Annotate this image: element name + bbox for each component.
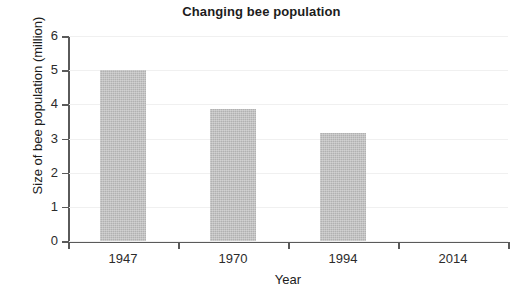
bar-chart: Changing bee population Size of bee popu… — [0, 0, 523, 297]
y-axis-tick — [62, 207, 69, 209]
y-axis-tick-label: 5 — [36, 63, 58, 76]
y-axis-tick — [62, 139, 69, 141]
y-axis-tick — [62, 70, 69, 72]
plot-area — [68, 36, 508, 241]
x-axis-tick-label: 1970 — [198, 252, 268, 265]
bar-1947 — [100, 70, 146, 241]
y-axis-tick-label: 1 — [36, 200, 58, 213]
y-axis-tick — [62, 173, 69, 175]
x-axis-tick-label: 1994 — [308, 252, 378, 265]
chart-title: Changing bee population — [0, 4, 523, 19]
x-axis-tick — [398, 242, 400, 249]
x-axis-title: Year — [68, 272, 508, 287]
y-axis-tick-label: 4 — [36, 97, 58, 110]
bar-1994 — [320, 133, 366, 241]
y-axis-tick-label: 2 — [36, 166, 58, 179]
x-axis-tick-label: 1947 — [88, 252, 158, 265]
y-axis-tick — [62, 104, 69, 106]
y-axis-tick-label: 3 — [36, 132, 58, 145]
x-axis-tick — [508, 242, 510, 249]
x-axis-tick-label: 2014 — [418, 252, 488, 265]
gridline — [68, 36, 508, 37]
x-axis-tick — [178, 242, 180, 249]
y-axis-tick-label: 0 — [36, 234, 58, 247]
y-axis-tick-label: 6 — [36, 29, 58, 42]
x-axis-tick — [288, 242, 290, 249]
y-axis-tick — [62, 36, 69, 38]
bar-1970 — [210, 109, 256, 241]
x-axis-tick — [68, 242, 70, 249]
